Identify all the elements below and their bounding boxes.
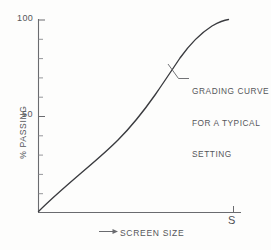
x-axis-title: SCREEN SIZE <box>120 228 184 238</box>
y-axis-title: % PASSING <box>18 92 28 172</box>
annotation-line-3: SETTING <box>192 149 269 160</box>
x-axis-end-marker-s: S <box>228 214 235 226</box>
x-axis-arrow-head <box>113 229 119 234</box>
curve-annotation: GRADING CURVE FOR A TYPICAL SETTING <box>192 65 269 181</box>
grading-curve-figure: 100 50 % PASSING SCREEN SIZE S GRADING C… <box>0 0 271 250</box>
annotation-line-2: FOR A TYPICAL <box>192 118 269 129</box>
y-tick-label-100: 100 <box>17 13 33 23</box>
annotation-line-1: GRADING CURVE <box>192 86 269 97</box>
